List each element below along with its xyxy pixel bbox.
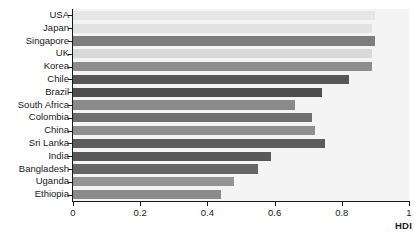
y-axis-tick	[68, 54, 72, 55]
y-axis-tick	[68, 156, 72, 157]
y-axis-tick	[68, 67, 72, 68]
category-label: Korea	[0, 61, 69, 71]
x-axis-tick	[73, 202, 74, 206]
category-label: Colombia	[0, 112, 69, 122]
x-axis-tick	[140, 202, 141, 206]
category-label: Bangladesh	[0, 164, 69, 174]
category-label: Singapore	[0, 36, 69, 46]
x-axis-tick-label: 0.2	[134, 207, 147, 218]
category-label: India	[0, 151, 69, 161]
y-axis-tick	[68, 79, 72, 80]
y-axis-tick	[68, 15, 72, 16]
y-axis-tick	[68, 118, 72, 119]
x-axis-tick	[409, 202, 410, 206]
category-label: China	[0, 125, 69, 135]
category-label: Ethiopia	[0, 189, 69, 199]
y-axis-tick	[68, 182, 72, 183]
category-label: Sri Lanka	[0, 138, 69, 148]
x-axis-tick	[275, 202, 276, 206]
x-axis-tick	[342, 202, 343, 206]
x-axis-title: HDI	[395, 220, 412, 231]
category-label: Japan	[0, 23, 69, 33]
y-axis-tick	[68, 143, 72, 144]
x-axis-tick-label: 0	[70, 207, 75, 218]
category-axis-labels: USAJapanSingaporeUKKoreaChileBrazilSouth…	[0, 9, 414, 201]
x-axis-tick-label: 1	[406, 207, 411, 218]
category-label: South Africa	[0, 100, 69, 110]
x-axis-tick	[207, 202, 208, 206]
category-label: Brazil	[0, 87, 69, 97]
y-axis-tick	[68, 105, 72, 106]
category-label: USA	[0, 10, 69, 20]
y-axis-tick	[68, 169, 72, 170]
y-axis-tick	[68, 28, 72, 29]
y-axis-tick	[68, 92, 72, 93]
y-axis-tick	[68, 131, 72, 132]
x-axis-tick-label: 0.4	[201, 207, 214, 218]
hdi-bar-chart: USAJapanSingaporeUKKoreaChileBrazilSouth…	[0, 0, 414, 235]
category-label: Uganda	[0, 176, 69, 186]
category-label: Chile	[0, 74, 69, 84]
y-axis-tick	[68, 195, 72, 196]
y-axis-tick	[68, 41, 72, 42]
x-axis-tick-label: 0.6	[268, 207, 281, 218]
x-axis-tick-label: 0.8	[335, 207, 348, 218]
x-axis-line	[72, 201, 410, 202]
category-label: UK	[0, 48, 69, 58]
